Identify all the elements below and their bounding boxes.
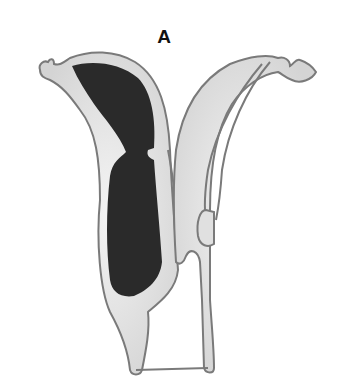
small-bulge — [197, 210, 214, 246]
uterus-diagram — [0, 0, 352, 382]
right-horn-wall — [174, 56, 316, 373]
base-line — [136, 368, 208, 370]
